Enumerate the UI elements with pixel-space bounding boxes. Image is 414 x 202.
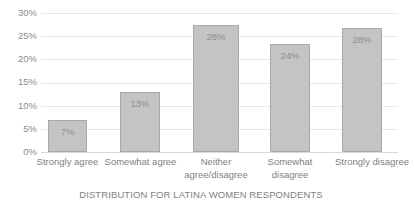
x-axis-label-line2: disagree [252, 169, 328, 182]
clipped-chart-title [0, 0, 402, 7]
bar-neither-agree-disagree[interactable]: 28% [193, 25, 239, 152]
y-axis-tick-5: 5% [3, 124, 37, 134]
bar-value-label: 13% [121, 98, 159, 109]
x-axis-label-line1: Strongly agree [28, 156, 107, 169]
y-axis: 30% 25% 20% 15% 10% 5% 0% [0, 0, 37, 202]
x-axis-label-line1: Neither [180, 156, 252, 169]
y-axis-tick-20: 20% [3, 54, 37, 64]
bar-value-label: 28% [343, 34, 381, 45]
x-axis-labels: Strongly agree Somewhat agree Neither ag… [41, 156, 398, 186]
bar-value-label: 28% [194, 31, 238, 42]
gridline-0 [41, 152, 398, 153]
bar-value-label: 7% [49, 126, 86, 137]
plot-area: 7% 13% 28% 24% 28% [41, 13, 398, 152]
y-axis-tick-25: 25% [3, 31, 37, 41]
bar-somewhat-agree[interactable]: 13% [120, 92, 160, 152]
bar-value-label: 24% [271, 50, 309, 61]
x-axis-label-strongly-agree: Strongly agree [28, 156, 107, 169]
bar-somewhat-disagree[interactable]: 24% [270, 44, 310, 152]
x-axis-title: DISTRIBUTION FOR LATINA WOMEN RESPONDENT… [0, 189, 402, 202]
y-axis-tick-15: 15% [3, 77, 37, 87]
x-axis-label-line2: agree/disagree [180, 169, 252, 182]
x-axis-label-line1: Somewhat [252, 156, 328, 169]
x-axis-label-line1: Somewhat agree [100, 156, 181, 169]
y-axis-tick-10: 10% [3, 101, 37, 111]
x-axis-label-neither-agree-disagree: Neither agree/disagree [180, 156, 252, 181]
x-axis-label-line1: Strongly disagree [328, 156, 414, 169]
x-axis-label-somewhat-disagree: Somewhat disagree [252, 156, 328, 181]
gridline-30 [41, 13, 398, 14]
x-axis-label-somewhat-agree: Somewhat agree [100, 156, 181, 169]
x-axis-label-strongly-disagree: Strongly disagree [328, 156, 414, 169]
bar-strongly-agree[interactable]: 7% [48, 120, 87, 152]
y-axis-tick-30: 30% [3, 8, 37, 18]
bar-strongly-disagree[interactable]: 28% [342, 28, 382, 152]
